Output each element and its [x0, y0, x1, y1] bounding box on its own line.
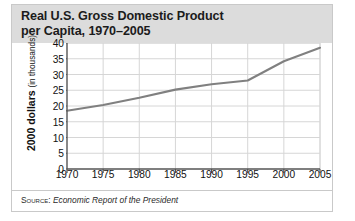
y-tick-label: 10: [53, 132, 64, 143]
source-note: Source: Economic Report of the President: [21, 195, 178, 205]
y-tick-label: 15: [53, 116, 64, 127]
y-tick-label: 20: [53, 101, 64, 112]
chart-figure: Real U.S. Gross Domestic Product per Cap…: [11, 4, 333, 212]
horizontal-gridlines: [67, 43, 320, 153]
source-label: Source:: [21, 195, 51, 205]
x-tick-label: 1980: [128, 169, 151, 180]
y-tick-label: 30: [53, 69, 64, 80]
source-bar: Source: Economic Report of the President: [12, 190, 332, 211]
y-tick-label: 5: [58, 148, 64, 159]
plot-canvas: [66, 43, 322, 177]
y-axis-label: 2000 dollars (in thousands): [25, 28, 37, 158]
x-tick-label: 1995: [236, 169, 259, 180]
y-tick-label: 35: [53, 53, 64, 64]
x-tick-label: 2000: [273, 169, 296, 180]
source-citation: Economic Report of the President: [53, 195, 178, 205]
x-tick-label: 1990: [200, 169, 223, 180]
y-tick-label: 25: [53, 85, 64, 96]
gdp-per-capita-line: [67, 48, 320, 111]
x-tick-labels: 19701975198019851990199520002005: [66, 169, 321, 191]
x-tick-label: 1975: [92, 169, 115, 180]
x-tick-label: 1970: [56, 169, 79, 180]
plot-area: 2000 dollars (in thousands) 051015202530…: [12, 43, 332, 192]
y-tick-labels: 0510152025303540: [42, 43, 64, 176]
chart-title: Real U.S. Gross Domestic Product per Cap…: [21, 9, 321, 38]
x-tick-label: 2005: [309, 169, 332, 180]
y-axis-label-unit: (in thousands): [27, 35, 37, 88]
x-tick-label: 1985: [164, 169, 187, 180]
y-tick-label: 40: [53, 38, 64, 49]
y-axis-label-main: 2000 dollars: [25, 90, 37, 151]
